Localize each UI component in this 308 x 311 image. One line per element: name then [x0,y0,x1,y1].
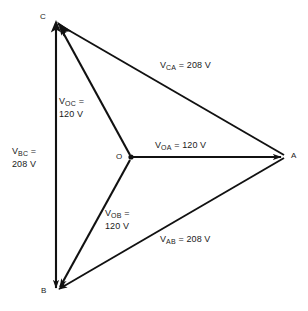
vector-label-ob-line1: VOB = [105,208,130,221]
vector-label-oc-subscript: OC [65,100,76,107]
vector-label-oa: VOA = 120 V [155,140,206,153]
vector-label-ca: VCA = 208 V [160,60,211,73]
vector-label-oa-subscript: OA [161,144,172,151]
vector-label-oc: VOC = 120 V [59,96,84,120]
vector-label-oc-line1: VOC = [59,96,84,109]
vector-label-ab: VAB = 208 V [160,234,210,247]
vector-label-ob-value: 120 V [105,221,130,232]
vector-label-ca-subscript: CA [166,64,176,71]
vector-label-bc-line1: VBC = [12,146,36,159]
vector-label-ab-value: = 208 V [178,234,210,244]
vector-label-bc: VBC = 208 V [12,146,36,170]
vector-label-bc-value: 208 V [12,159,36,170]
node-label-b: B [41,286,46,295]
node-label-c: C [40,12,46,21]
vector-label-ob-equals: = [124,208,129,218]
origin-node-dot [128,154,133,159]
vector-line-ca [58,24,284,155]
vector-label-ob: VOB = 120 V [105,208,130,232]
vector-label-ab-subscript: AB [166,238,176,245]
phasor-diagram-canvas [0,0,308,311]
vector-label-oc-value: 120 V [59,109,84,120]
vector-line-ab [59,158,284,289]
vector-label-bc-subscript: BC [18,150,28,157]
vector-label-ca-value: = 208 V [179,60,211,70]
vector-label-oc-equals: = [79,96,84,106]
vector-label-bc-equals: = [31,146,36,156]
phasor-diagram: VCA = 208 V VOA = 120 V VAB = 208 V VOC … [0,0,308,311]
node-label-o: O [116,152,122,161]
vector-label-oa-value: = 120 V [174,140,206,150]
vector-label-ob-subscript: OB [111,212,122,219]
node-label-a: A [291,151,296,160]
